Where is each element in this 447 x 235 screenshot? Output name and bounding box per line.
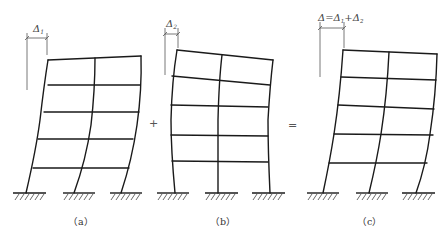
frame-a xyxy=(26,56,141,193)
frame-b xyxy=(171,50,273,193)
plus-operator: + xyxy=(149,117,158,130)
panel-a: Δ1 （a） xyxy=(13,23,142,227)
caption-b: （b） xyxy=(210,216,236,227)
delta-total-label: Δ=Δ1+Δ2 xyxy=(317,12,364,24)
supports-b xyxy=(157,193,285,200)
frame-c xyxy=(323,50,437,193)
delta1-label: Δ1 xyxy=(32,23,44,35)
delta2-label: Δ2 xyxy=(165,18,177,30)
frame-deformation-diagram: Δ1 （a） + xyxy=(0,0,447,235)
caption-c: （c） xyxy=(357,216,382,227)
panel-b: Δ2 （b） xyxy=(157,18,285,227)
caption-a: （a） xyxy=(68,216,94,227)
supports-c xyxy=(307,193,435,200)
supports-a xyxy=(13,193,142,200)
panel-c: Δ=Δ1+Δ2 （c） xyxy=(307,12,437,227)
equals-operator: = xyxy=(288,119,297,132)
